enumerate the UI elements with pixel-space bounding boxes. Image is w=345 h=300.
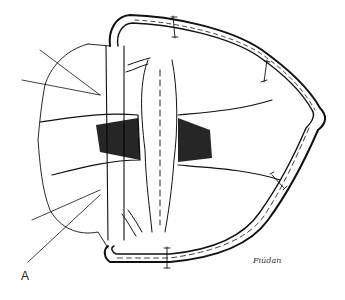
artist-signature: Fiúdan	[253, 256, 281, 265]
panel-label: A	[21, 269, 29, 283]
surgical-illustration	[0, 0, 345, 300]
graft-frame-inner	[112, 23, 314, 254]
hatching-shadow	[96, 118, 212, 162]
central-flap	[142, 60, 177, 232]
